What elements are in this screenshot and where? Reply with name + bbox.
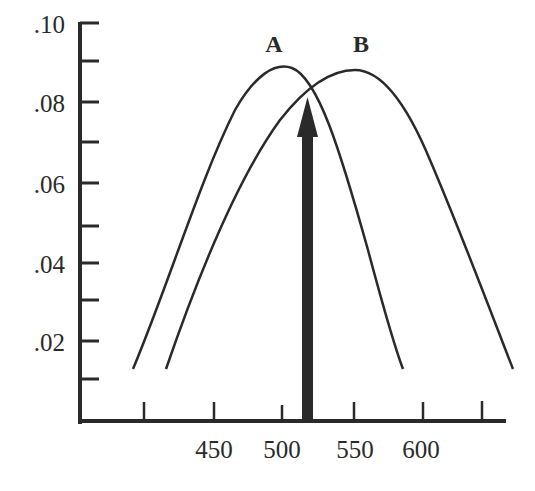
x-tick-label: 600 <box>402 436 440 463</box>
arrow-up-icon <box>297 97 318 422</box>
x-tick-label: 450 <box>195 436 233 463</box>
curve-a-label: A <box>265 31 283 57</box>
y-tick-label: .06 <box>34 171 65 198</box>
y-ticks <box>80 23 99 379</box>
x-tick-label: 500 <box>263 436 301 463</box>
curve-a <box>133 67 403 369</box>
curve-b-label: B <box>353 31 369 57</box>
y-tick-label: .04 <box>34 251 66 278</box>
chart: .10 .08 .06 .04 .02 450 500 550 600 A B <box>0 0 535 491</box>
curve-b <box>166 70 513 369</box>
x-tick-label: 550 <box>336 436 374 463</box>
y-tick-label: .10 <box>34 11 65 38</box>
y-tick-label: .08 <box>34 90 65 117</box>
y-tick-label: .02 <box>34 329 65 356</box>
